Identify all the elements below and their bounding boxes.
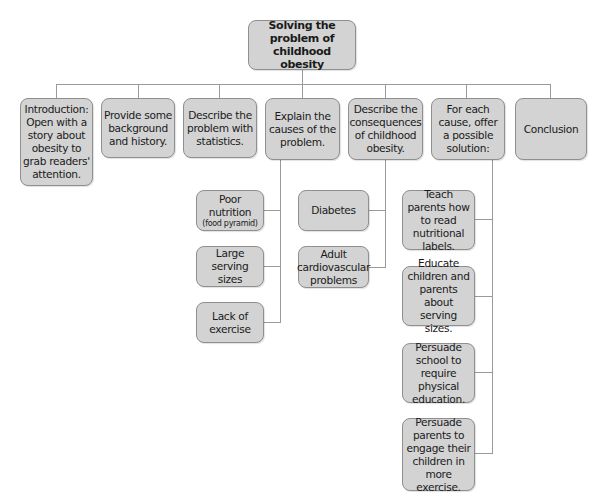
cause-label: Large serving sizes (199, 247, 261, 286)
section-label: Introduction: Open with a story about ob… (23, 103, 90, 181)
consequence-label: Adult cardiovascular problems (297, 248, 370, 287)
connector-top-bar (56, 84, 550, 85)
section-conclusion: Conclusion (515, 98, 587, 160)
connector-solution-3 (474, 372, 493, 373)
connector-consequences-trunk (385, 160, 386, 268)
connector-cause-3 (263, 322, 281, 323)
connector-solutions-trunk (492, 160, 493, 454)
connector-cause-1 (263, 210, 281, 211)
connector-intro (56, 84, 57, 98)
solution-label: Teach parents how to read nutritional la… (405, 188, 472, 253)
connector-solution-2 (474, 296, 493, 297)
consequence-diabetes: Diabetes (298, 190, 369, 231)
connector-causes-trunk (280, 160, 281, 323)
connector-conclusion (550, 84, 551, 98)
connector-solution-4 (474, 453, 493, 454)
connector-root-down (302, 70, 303, 84)
root-node: Solving the problem of childhood obesity (248, 20, 356, 70)
solution-more-exercise: Persuade parents to engage their childre… (402, 418, 475, 491)
section-label: Explain the causes of the problem. (268, 110, 337, 149)
section-background: Provide some background and history. (101, 98, 175, 158)
cause-label: Poor nutrition (199, 193, 261, 219)
consequence-label: Diabetes (311, 204, 356, 217)
root-label: Solving the problem of childhood obesity (251, 19, 353, 71)
connector-cause-2 (263, 266, 281, 267)
section-label: For each cause, offer a possible solutio… (434, 103, 502, 155)
solution-physical-education: Persuade school to require physical educ… (402, 343, 475, 403)
connector-solutions (466, 84, 467, 98)
section-label: Provide some background and history. (104, 109, 172, 148)
cause-lack-of-exercise: Lack of exercise (196, 302, 264, 343)
cause-large-serving-sizes: Large serving sizes (196, 246, 264, 287)
cause-label: Lack of exercise (199, 310, 261, 336)
cause-note: (food pyramid) (202, 219, 257, 229)
connector-causes (302, 84, 303, 98)
section-statistics: Describe the problem with statistics. (183, 98, 257, 158)
section-label: Conclusion (524, 123, 579, 136)
connector-background (138, 84, 139, 98)
solution-label: Persuade school to require physical educ… (405, 341, 472, 406)
section-introduction: Introduction: Open with a story about ob… (20, 98, 93, 186)
solution-serving-sizes: Educate children and parents about servi… (402, 266, 475, 326)
solution-nutritional-labels: Teach parents how to read nutritional la… (402, 190, 475, 250)
connector-consequence-1 (368, 210, 386, 211)
cause-poor-nutrition: Poor nutrition (food pyramid) (196, 190, 264, 231)
connector-solution-1 (474, 219, 493, 220)
consequence-adult-cardiovascular: Adult cardiovascular problems (298, 246, 369, 288)
section-causes: Explain the causes of the problem. (265, 98, 340, 160)
connector-statistics (219, 84, 220, 98)
connector-consequences (385, 84, 386, 98)
section-label: Describe the problem with statistics. (186, 109, 254, 148)
solution-label: Educate children and parents about servi… (405, 257, 472, 335)
section-label: Describe the consequences of childhood o… (350, 103, 422, 155)
solution-label: Persuade parents to engage their childre… (405, 416, 472, 494)
connector-consequence-2 (368, 267, 386, 268)
section-solutions: For each cause, offer a possible solutio… (431, 98, 505, 160)
section-consequences: Describe the consequences of childhood o… (348, 98, 423, 160)
